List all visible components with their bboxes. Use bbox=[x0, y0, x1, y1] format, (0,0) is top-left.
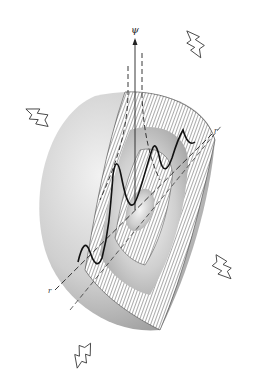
psi-axis-label: ψ bbox=[131, 24, 139, 35]
psi-axis-arrowhead bbox=[133, 38, 138, 45]
figure-canvas: ψ r r bbox=[0, 0, 253, 386]
arrow-upper-left-icon bbox=[22, 103, 54, 130]
r-axis-label-lower: r bbox=[48, 287, 52, 295]
arrow-lower-left-icon bbox=[71, 339, 95, 370]
arrow-lower-right-icon bbox=[208, 252, 237, 283]
arrow-upper-right-icon bbox=[180, 27, 209, 60]
r-axis-label-upper: r bbox=[214, 127, 218, 135]
